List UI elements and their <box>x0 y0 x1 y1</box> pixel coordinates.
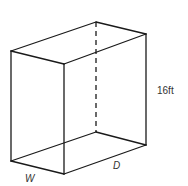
top-edge-left-to-back <box>11 22 96 51</box>
top-edge-left-to-front <box>11 51 64 64</box>
width-label: W <box>25 173 36 184</box>
bottom-edge-back-to-right <box>96 132 146 145</box>
bottom-edge-left-to-front <box>11 161 64 174</box>
top-edge-front-to-right <box>64 34 146 64</box>
bottom-edge-front-to-right <box>64 145 146 174</box>
depth-label: D <box>113 160 120 171</box>
bottom-edge-left-to-back <box>11 132 96 161</box>
height-label: 16ft <box>157 85 174 96</box>
rectangular-prism-diagram: 16ft W D <box>0 0 188 186</box>
top-edge-back-to-right <box>96 22 146 34</box>
